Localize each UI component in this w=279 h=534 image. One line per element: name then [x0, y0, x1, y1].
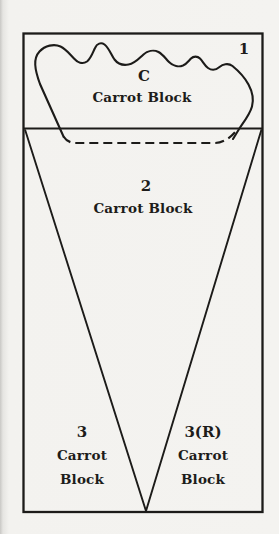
region-2-number: 2: [141, 177, 152, 195]
region-c-name: Carrot Block: [92, 89, 191, 105]
region-3r-name: Carrot Block: [166, 444, 240, 491]
region-3-label: 3 Carrot Block: [45, 420, 119, 491]
region-3r-number: 3(R): [166, 420, 240, 444]
region-1-label: 1: [239, 40, 249, 58]
region-c-number: C: [138, 67, 150, 85]
region-2-name: Carrot Block: [93, 200, 192, 216]
capping-block-hidden-base: [64, 131, 237, 144]
region-3-name: Carrot Block: [45, 444, 119, 491]
region-3r-label: 3(R) Carrot Block: [166, 420, 240, 491]
diagram-page: 1 C Carrot Block 2 Carrot Block 3 Carrot…: [0, 0, 279, 534]
region-3-number: 3: [45, 420, 119, 444]
